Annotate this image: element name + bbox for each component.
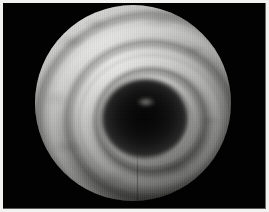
specular-glint-icon (137, 97, 155, 107)
image-plate-frame (0, 0, 269, 212)
distal-airway-lumen (102, 79, 188, 157)
screenshot-root (0, 0, 269, 212)
photo-field-background (3, 3, 266, 209)
posterior-membrane-fold (137, 146, 139, 201)
endoscope-circular-field-of-view (35, 5, 231, 201)
